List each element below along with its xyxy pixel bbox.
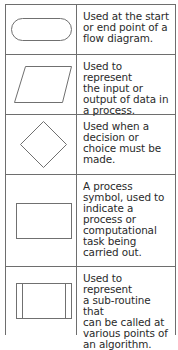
- table-row: Used at the start or end point of a flow…: [6, 5, 175, 55]
- description-cell: A process symbol, used to indicate a pro…: [83, 175, 173, 258]
- table-row: Used when a decision or choice must be m…: [6, 115, 175, 175]
- description-cell: Used when a decision or choice must be m…: [83, 115, 173, 165]
- symbol-cell: [6, 267, 77, 335]
- symbol-cell: [6, 5, 77, 54]
- description-cell: Used to represent the input or output of…: [83, 55, 173, 116]
- rectangle-icon: [6, 175, 76, 266]
- subroutine-icon: [6, 267, 76, 335]
- symbol-cell: [6, 55, 77, 114]
- diamond-icon: [6, 115, 76, 174]
- description-cell: Used to represent a sub-routine that can…: [83, 267, 173, 350]
- table-row: Used to represent a sub-routine that can…: [6, 267, 175, 335]
- description-cell: Used at the start or end point of a flow…: [83, 5, 173, 44]
- symbol-cell: [6, 175, 77, 266]
- symbol-cell: [6, 115, 77, 174]
- terminator-oval-icon: [6, 5, 76, 54]
- flowchart-symbols-table: Used at the start or end point of a flow…: [5, 4, 176, 335]
- table-row: A process symbol, used to indicate a pro…: [6, 175, 175, 267]
- table-row: Used to represent the input or output of…: [6, 55, 175, 115]
- parallelogram-icon: [6, 55, 76, 114]
